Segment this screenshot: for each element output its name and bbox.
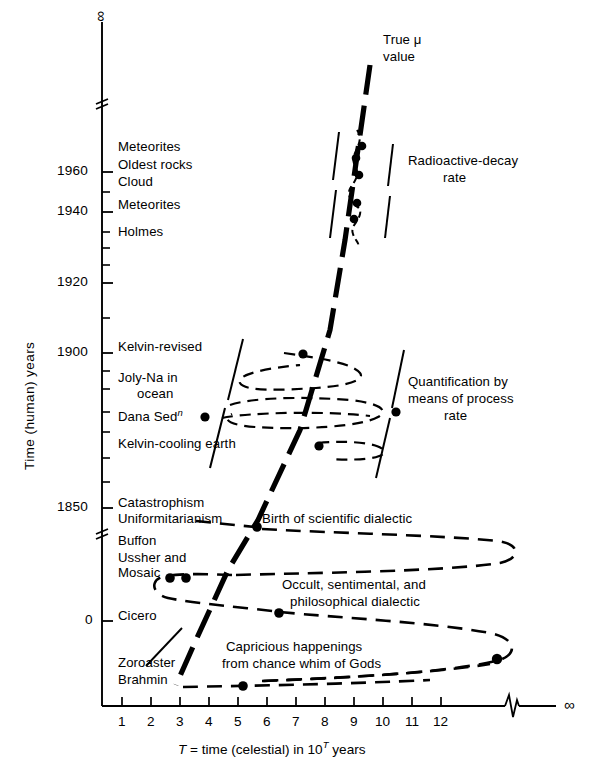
x-tick-label-5: 5 [234,714,242,729]
annotation-occult-line2: philosophical dialectic [290,595,420,610]
x-axis-title-suffix: years [329,742,366,757]
quantification-curve [222,353,384,460]
annotation-radioactive-decay-line2: rate [443,171,466,186]
event-label-oldest-rocks: Oldest rocks [118,158,193,173]
annotation-capricious-line2: from chance whim of Gods [222,657,381,672]
data-point [358,142,367,151]
data-point [391,407,400,416]
annotation-radioactive-decay-line1: Radioactive-decay [408,154,518,169]
age-of-earth-figure: Time (human) years 1960 1940 1920 1900 1… [0,0,590,771]
y-tick-label-1920: 1920 [57,274,88,289]
radioactive-decay-bracket-right [385,144,393,238]
x-axis-title-mid: = time (celestial) in 10 [186,742,322,757]
radioactive-decay-bracket-left [330,132,339,238]
x-axis-infinity-label: ∞ [564,697,575,714]
data-point [492,654,502,664]
x-tick-label-4: 4 [205,714,213,729]
x-tick-label-10: 10 [375,714,390,729]
annotation-true-mu-line1: True μ [383,33,422,48]
data-point [252,522,262,532]
event-label-uniformitarianism: Uniformitarianism [118,512,222,527]
annotation-quantification-line3: rate [444,409,467,424]
y-major-ticks [102,172,113,621]
event-label-meteorites-2: Meteorites [118,198,181,213]
event-label-ussher: Ussher and [118,551,186,566]
annotation-quantification-line1: Quantification by [408,375,508,390]
event-label-dana-sed-superscript: n [177,407,182,418]
annotation-birth-dialectic: Birth of scientific dialectic [262,512,412,527]
event-label-dana-sed: Dana Sedn [118,408,183,425]
y-minor-ticks [102,192,110,482]
y-tick-label-0: 0 [85,612,93,627]
y-axis-infinity-label: ∞ [92,11,109,22]
event-label-kelvin-cooling: Kelvin-cooling earth [118,437,236,452]
data-point [274,608,284,618]
event-label-brahmin: Brahmin [118,673,168,688]
event-label-joly-na-ocean: ocean [137,387,173,402]
data-point [298,349,307,358]
y-tick-label-1850: 1850 [57,499,88,514]
event-label-zoroaster: Zoroaster [118,656,175,671]
event-label-cicero: Cicero [118,609,157,624]
data-point [355,171,364,180]
annotation-capricious-line1: Capricious happenings [226,640,362,655]
x-tick-label-9: 9 [350,714,358,729]
x-tick-label-3: 3 [176,714,184,729]
y-tick-label-1940: 1940 [57,203,88,218]
event-label-cloud: Cloud [118,175,153,190]
event-label-mosaic: Mosaic [118,566,160,581]
event-label-dana-sed-text: Dana Sed [118,409,177,424]
x-tick-label-8: 8 [321,714,329,729]
y-tick-label-1900: 1900 [57,344,88,359]
birth-dialectic-points [252,522,262,532]
data-point [352,154,361,163]
data-point [200,412,209,421]
event-label-buffon: Buffon [118,534,157,549]
x-tick-label-11: 11 [405,714,419,729]
x-tick-label-1: 1 [118,714,126,729]
event-label-meteorites-1: Meteorites [118,140,181,155]
x-tick-label-7: 7 [292,714,300,729]
x-axis-break [505,695,519,717]
annotation-occult-line1: Occult, sentimental, and [282,578,426,593]
data-point [353,199,362,208]
event-label-catastrophism: Catastrophism [118,496,204,511]
event-label-joly-na: Joly-Na in [118,371,178,386]
x-tick-label-6: 6 [263,714,271,729]
data-point [165,573,175,583]
x-axis-title: T = time (celestial) in 10T years [178,740,366,757]
x-tick-label-12: 12 [433,714,448,729]
event-label-holmes: Holmes [118,225,163,240]
annotation-quantification-line2: means of process [408,392,514,407]
y-axis-title: Time (human) years [22,342,37,470]
x-tick-label-2: 2 [147,714,155,729]
data-point [350,215,359,224]
y-tick-label-1960: 1960 [57,163,88,178]
event-label-kelvin-revised: Kelvin-revised [118,340,202,355]
x-ticks [122,697,441,706]
data-point [181,573,191,583]
data-point [238,681,248,691]
annotation-true-mu-line2: value [383,50,415,65]
data-point [314,441,323,450]
